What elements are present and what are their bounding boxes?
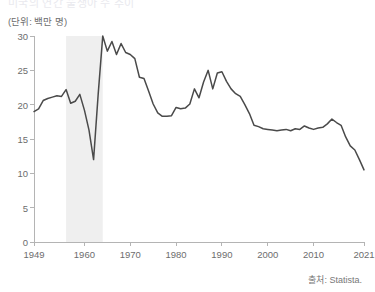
x-tick-label: 2010: [303, 249, 324, 260]
line-chart-svg: [34, 36, 364, 242]
y-tick-label: 15: [4, 134, 28, 145]
y-tick-label: 20: [4, 99, 28, 110]
chart-title: 미국의 연간 출생아 수 추이: [8, 0, 135, 10]
unit-label: (단위: 백만 명): [8, 14, 67, 28]
x-tick-label: 1990: [211, 249, 232, 260]
source-note: 출처: Statista.: [308, 273, 362, 286]
y-tick-label: 25: [4, 65, 28, 76]
plot-area: [34, 36, 364, 242]
y-tick-label: 30: [4, 31, 28, 42]
x-tick-label: 2000: [257, 249, 278, 260]
x-tick-label: 1970: [120, 249, 141, 260]
x-tick-label: 1980: [166, 249, 187, 260]
x-tick-label: 1960: [74, 249, 95, 260]
x-tick-label: 1949: [23, 249, 44, 260]
y-tick-label: 5: [4, 202, 28, 213]
x-tick-label: 2021: [353, 249, 374, 260]
highlight-band-group: [66, 36, 103, 242]
y-tick-label: 10: [4, 168, 28, 179]
highlight-band: [66, 36, 103, 242]
y-tick-label: 0: [4, 237, 28, 248]
